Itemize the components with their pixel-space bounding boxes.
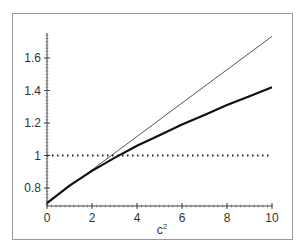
y-tick-label: 1.4 bbox=[24, 84, 41, 98]
x-tick-label: 6 bbox=[179, 211, 186, 225]
x-tick-label: 4 bbox=[134, 211, 141, 225]
x-tick-label: 8 bbox=[224, 211, 231, 225]
x-tick-label: 2 bbox=[89, 211, 96, 225]
x-tick-label: 0 bbox=[44, 211, 51, 225]
series-thick-curve bbox=[47, 87, 272, 203]
axes: 0.811.21.41.60246810 bbox=[24, 33, 279, 225]
series-group bbox=[47, 36, 272, 203]
y-tick-label: 0.8 bbox=[24, 181, 41, 195]
x-tick-label: 10 bbox=[265, 211, 279, 225]
line-chart: 0.811.21.41.60246810 c2 bbox=[0, 0, 305, 250]
y-tick-label: 1.6 bbox=[24, 51, 41, 65]
y-tick-label: 1.2 bbox=[24, 116, 41, 130]
x-axis-label: c2 bbox=[157, 222, 168, 237]
y-tick-label: 1 bbox=[34, 149, 41, 163]
